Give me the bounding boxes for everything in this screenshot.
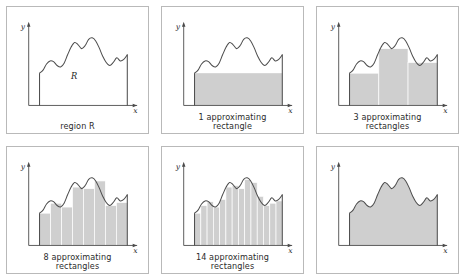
approximating-rectangle — [270, 203, 276, 245]
panel-frame: y x 1 approximating rectangle — [161, 6, 304, 134]
x-axis-label: x — [443, 106, 448, 115]
approximating-rectangle — [116, 202, 127, 245]
plot-body — [40, 38, 128, 106]
region-label: R — [70, 71, 77, 81]
approximating-rectangles — [350, 49, 438, 106]
panel-frame: y x 8 approximating rectangles — [6, 146, 149, 274]
approximating-rectangles — [40, 181, 128, 245]
figure-container: y x R region R y x — [0, 0, 465, 280]
panel-region-r: y x R region R — [0, 0, 155, 140]
panel-fourteen-rectangles: y x 14 approximating rectangles — [155, 140, 310, 280]
approximating-rectangle — [232, 186, 238, 246]
approximating-rectangle — [195, 213, 201, 245]
plot-body — [40, 178, 128, 246]
approximating-rectangle — [263, 206, 269, 246]
plot-exact-region: y x — [317, 147, 458, 273]
approximating-rectangle — [245, 179, 251, 245]
approximating-rectangle — [276, 201, 282, 246]
y-axis-label: y — [330, 162, 336, 171]
approximating-rectangle — [83, 189, 94, 246]
panel-eight-rectangles: y x 8 approximating rectangles — [0, 140, 155, 280]
function-curve — [40, 38, 128, 73]
panel-frame: y x — [316, 146, 459, 274]
approximating-rectangle — [350, 73, 379, 105]
plot-one-rectangle: y x — [162, 7, 303, 133]
approximating-rectangle — [195, 73, 283, 105]
approximating-rectangle — [213, 207, 219, 245]
approximating-rectangle — [51, 203, 62, 245]
approximating-rectangle — [61, 207, 72, 245]
approximating-rectangle — [379, 49, 408, 106]
plot-body — [195, 178, 283, 246]
approximating-rectangle — [220, 199, 226, 245]
plot-body — [195, 38, 283, 106]
approximating-rectangle — [40, 213, 51, 245]
approximating-rectangle — [207, 202, 213, 246]
plot-body — [350, 178, 438, 246]
y-axis-label: y — [20, 162, 26, 171]
approximating-rectangle — [226, 187, 232, 245]
approximating-rectangle — [105, 206, 116, 246]
approximating-rectangles — [195, 179, 283, 245]
panel-three-rectangles: y x 3 approximating rectangles — [310, 0, 465, 140]
x-axis-label: x — [133, 106, 138, 115]
x-axis-label: x — [443, 246, 448, 255]
panel-frame: y x 14 approximating rectangles — [161, 146, 304, 274]
axes — [27, 22, 137, 107]
y-axis-label: y — [20, 22, 26, 31]
plot-body — [350, 38, 438, 106]
y-axis-label: y — [330, 22, 336, 31]
panel-exact-region: y x — [310, 140, 465, 280]
y-axis-label: y — [175, 162, 181, 171]
approximating-rectangle — [72, 187, 83, 245]
approximating-rectangles — [195, 73, 283, 105]
panel-frame: y x R region R — [6, 6, 149, 134]
panel-frame: y x 3 approximating rectangles — [316, 6, 459, 134]
approximating-rectangle — [238, 189, 244, 246]
x-axis-label: x — [288, 106, 293, 115]
plot-eight-rectangles: y x — [7, 147, 148, 273]
approximating-rectangle — [408, 62, 437, 105]
plot-three-rectangles: y x — [317, 7, 458, 133]
plot-region-r: y x R — [7, 7, 148, 133]
y-axis-label: y — [175, 22, 181, 31]
plot-fourteen-rectangles: y x — [162, 147, 303, 273]
panel-one-rectangle: y x 1 approximating rectangle — [155, 0, 310, 140]
function-curve — [195, 38, 283, 73]
approximating-rectangle — [201, 206, 207, 246]
x-axis-label: x — [288, 246, 293, 255]
x-axis-label: x — [133, 246, 138, 255]
